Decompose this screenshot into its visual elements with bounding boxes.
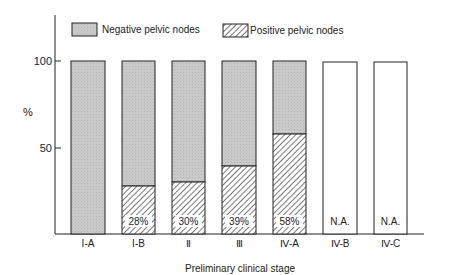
legend-swatch-positive	[223, 24, 248, 37]
legend-label-negative: Negative pelvic nodes	[102, 24, 200, 35]
legend-label-positive: Positive pelvic nodes	[250, 25, 343, 36]
bar-label-III: 39%	[229, 216, 249, 227]
bar-IV-B: N.A.	[323, 62, 357, 234]
bar-label-IV-C: N.A.	[381, 216, 400, 227]
bar-I-B: 28%	[122, 61, 155, 234]
bar-IV-A: 58%	[273, 61, 306, 234]
legend-swatch-negative	[72, 23, 97, 36]
chart-canvas: 100 50 % Negative pelvic nodes Positive …	[0, 0, 449, 275]
bar-label-IV-B: N.A.	[330, 216, 349, 227]
x-tick-IV-A: Ⅳ-A	[280, 238, 299, 249]
x-tick-IV-C: Ⅳ-C	[381, 238, 401, 249]
x-axis-label: Preliminary clinical stage	[185, 263, 295, 274]
bar-label-I-B: 28%	[128, 216, 148, 227]
bar-II: 30%	[172, 61, 205, 234]
bar-label-IV-A: 58%	[279, 216, 299, 227]
y-axis-label: %	[23, 106, 33, 118]
x-tick-IV-B: Ⅳ-B	[331, 238, 350, 249]
x-tick-I-A: I-A	[82, 238, 95, 249]
bar-IV-C: N.A.	[374, 62, 407, 234]
bar-I-A	[71, 61, 105, 234]
y-tick-label-100: 100	[34, 55, 52, 67]
x-tick-III: Ⅲ	[236, 238, 243, 249]
y-tick-label-50: 50	[40, 142, 52, 154]
bar-III: 39%	[222, 61, 256, 234]
bar-label-II: 30%	[178, 216, 198, 227]
x-tick-I-B: I-B	[132, 238, 145, 249]
x-tick-II: Ⅱ	[186, 238, 191, 249]
